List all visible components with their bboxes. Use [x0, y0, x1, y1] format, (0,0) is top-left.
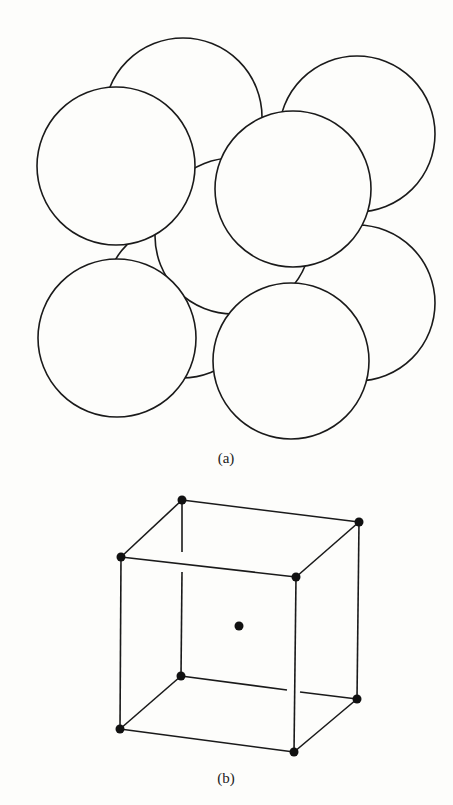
lattice-point-btr: [355, 518, 364, 527]
lattice-point-fbl: [116, 725, 125, 734]
lattice-point-ftr: [292, 573, 301, 582]
edge-top-right-depth: [296, 522, 359, 577]
lattice-point-center: [235, 622, 244, 631]
edge-top-left-depth: [121, 500, 182, 557]
edge-front-top: [121, 557, 296, 577]
part-b-label: (b): [217, 770, 235, 787]
edge-bottom-right-depth: [294, 699, 357, 752]
edge-back-right: [357, 522, 359, 699]
bcc-unit-cell-lattice: [0, 0, 453, 805]
edge-bottom-left-depth: [120, 676, 181, 729]
edge-back-bottom-left: [181, 676, 287, 690]
lattice-point-bbr: [353, 695, 362, 704]
lattice-point-ftl: [117, 553, 126, 562]
lattice-point-btl: [178, 496, 187, 505]
edge-back-bottom-right: [300, 692, 357, 699]
lattice-point-bbl: [177, 672, 186, 681]
lattice-point-fbr: [290, 748, 299, 757]
edge-front-bottom: [120, 729, 294, 752]
edge-front-right: [294, 577, 296, 752]
edge-back-left-lower: [181, 572, 182, 676]
edge-front-left: [120, 557, 121, 729]
edge-back-top: [182, 500, 359, 522]
